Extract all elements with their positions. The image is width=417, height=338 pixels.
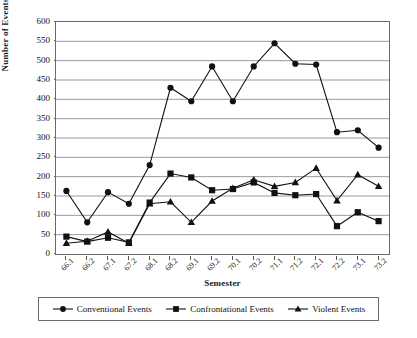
data-point bbox=[167, 170, 173, 176]
y-tick-label: 200 bbox=[16, 172, 50, 181]
x-tick-label: 67.1 bbox=[102, 257, 118, 273]
data-point bbox=[209, 63, 215, 69]
plot-area bbox=[55, 21, 390, 255]
y-tick-label: 350 bbox=[16, 114, 50, 123]
data-point bbox=[126, 201, 132, 207]
x-tick-label: 69.2 bbox=[206, 257, 222, 273]
series-line bbox=[66, 174, 378, 243]
data-point bbox=[334, 129, 340, 135]
x-axis-tick-labels: 66.166.267.167.268.168.269.169.270.170.2… bbox=[55, 256, 390, 296]
data-point bbox=[271, 190, 277, 196]
y-tick-label: 0 bbox=[16, 249, 50, 258]
y-tick-label: 300 bbox=[16, 133, 50, 142]
y-tick-label: 50 bbox=[16, 230, 50, 239]
x-tick-label: 71.1 bbox=[269, 257, 285, 273]
data-point bbox=[105, 235, 111, 241]
data-point bbox=[208, 197, 215, 204]
legend-item[interactable]: Confrontational Events bbox=[165, 304, 274, 314]
square-marker-icon bbox=[165, 304, 187, 314]
data-point bbox=[251, 63, 257, 69]
x-tick-label: 66.1 bbox=[60, 257, 76, 273]
y-tick-label: 600 bbox=[16, 17, 50, 26]
data-point bbox=[292, 61, 298, 67]
x-tick-label: 67.2 bbox=[123, 257, 139, 273]
series-circle bbox=[63, 40, 381, 225]
y-tick-label: 450 bbox=[16, 75, 50, 84]
x-tick-label: 73.2 bbox=[373, 257, 389, 273]
data-point bbox=[105, 189, 111, 195]
triangle-marker-icon bbox=[287, 304, 309, 314]
y-tick-label: 500 bbox=[16, 56, 50, 65]
data-point bbox=[167, 85, 173, 91]
data-point bbox=[354, 171, 361, 178]
data-point bbox=[167, 198, 174, 205]
x-tick-label: 72.1 bbox=[310, 257, 326, 273]
legend-item-label: Conventional Events bbox=[77, 304, 152, 314]
x-tick-label: 72.2 bbox=[331, 257, 347, 273]
y-axis-tick-labels: 600550500450400350300250200150100500 bbox=[20, 14, 54, 262]
x-tick-label: 73.1 bbox=[352, 257, 368, 273]
data-point bbox=[355, 127, 361, 133]
data-point bbox=[188, 98, 194, 104]
data-point bbox=[292, 179, 299, 186]
x-axis-title: Semester bbox=[55, 278, 390, 288]
data-point bbox=[63, 188, 69, 194]
y-tick-label: 250 bbox=[16, 152, 50, 161]
data-point bbox=[375, 182, 382, 189]
data-point bbox=[147, 162, 153, 168]
chart-canvas bbox=[56, 22, 389, 254]
data-point bbox=[230, 98, 236, 104]
series-line bbox=[66, 43, 378, 222]
data-point bbox=[84, 219, 90, 225]
x-tick-label: 71.2 bbox=[289, 257, 305, 273]
data-point bbox=[334, 223, 340, 229]
x-tick-label: 68.2 bbox=[165, 257, 181, 273]
data-point bbox=[313, 191, 319, 197]
legend-item[interactable]: Conventional Events bbox=[52, 304, 152, 314]
legend-item-label: Violent Events bbox=[312, 304, 365, 314]
chart-legend: Conventional EventsConfrontational Event… bbox=[38, 297, 379, 321]
x-tick-label: 70.2 bbox=[248, 257, 264, 273]
x-tick-label: 69.1 bbox=[185, 257, 201, 273]
y-axis-title: Number of Events bbox=[0, 0, 10, 100]
data-point bbox=[312, 164, 319, 171]
x-tick-label: 68.1 bbox=[144, 257, 160, 273]
data-point bbox=[292, 192, 298, 198]
circle-marker-icon bbox=[52, 304, 74, 314]
legend-item[interactable]: Violent Events bbox=[287, 304, 365, 314]
data-point bbox=[209, 187, 215, 193]
y-tick-label: 400 bbox=[16, 94, 50, 103]
y-tick-label: 150 bbox=[16, 191, 50, 200]
series-line bbox=[66, 168, 378, 243]
x-tick-label: 70.1 bbox=[227, 257, 243, 273]
data-point bbox=[271, 40, 277, 46]
data-point bbox=[313, 61, 319, 67]
x-tick-label: 66.2 bbox=[81, 257, 97, 273]
y-tick-label: 550 bbox=[16, 36, 50, 45]
data-point bbox=[188, 174, 194, 180]
legend-item-label: Confrontational Events bbox=[190, 304, 274, 314]
data-point bbox=[355, 209, 361, 215]
chart-figure: Number of Events 60055050045040035030025… bbox=[0, 0, 417, 338]
data-point bbox=[104, 228, 111, 235]
data-point bbox=[375, 218, 381, 224]
data-point bbox=[375, 145, 381, 151]
data-point bbox=[63, 234, 69, 240]
y-tick-label: 100 bbox=[16, 210, 50, 219]
